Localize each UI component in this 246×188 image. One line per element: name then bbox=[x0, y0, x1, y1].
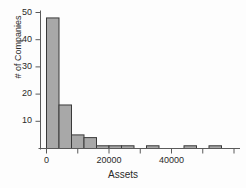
x-axis-tick-label: 40000 bbox=[148, 155, 196, 165]
x-axis-tick-label: 0 bbox=[23, 155, 71, 165]
x-axis-title: Assets bbox=[0, 169, 246, 180]
x-axis-tick-label: 20000 bbox=[85, 155, 133, 165]
y-axis-title: # of Companies bbox=[13, 1, 23, 93]
histogram-bar bbox=[84, 138, 97, 149]
histogram-bar bbox=[72, 135, 85, 149]
bars-group bbox=[47, 18, 222, 149]
histogram-chart: 1020304050 02000040000 # of Companies As… bbox=[0, 0, 246, 188]
histogram-bar bbox=[47, 18, 60, 149]
histogram-bar bbox=[59, 105, 72, 149]
y-axis-tick-label: 10 bbox=[10, 115, 32, 125]
